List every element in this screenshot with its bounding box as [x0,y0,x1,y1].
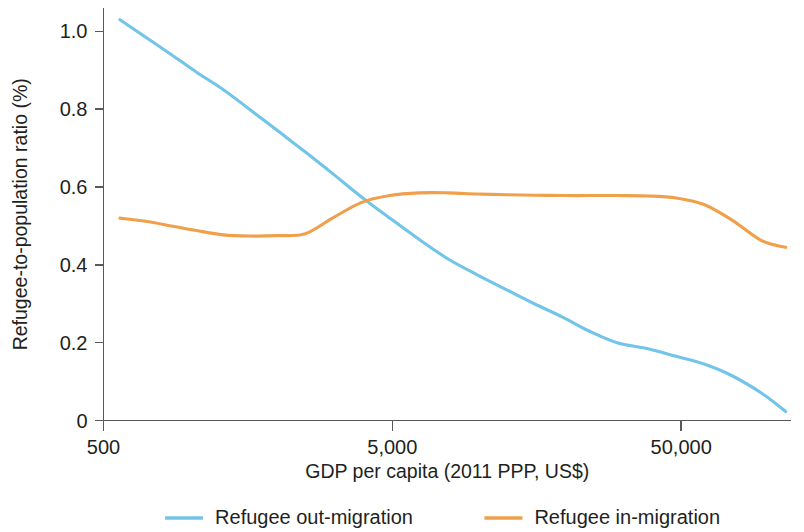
series-line-in-migration [120,193,786,248]
refugee-ratio-line-chart: 00.20.40.60.81.0 5005,00050,000 Refugee-… [0,0,804,532]
y-tick-label: 0.6 [60,176,88,198]
series-line-out-migration [120,20,786,412]
data-series-group [120,20,786,412]
chart-legend: Refugee out-migrationRefugee in-migratio… [165,506,720,528]
y-axis-title: Refugee-to-population ratio (%) [9,78,31,350]
y-axis-ticks: 00.20.40.60.81.0 [60,20,104,431]
x-axis-title: GDP per capita (2011 PPP, US$) [305,460,589,482]
legend-label-out-migration: Refugee out-migration [215,506,413,528]
x-tick-label: 500 [87,436,120,458]
legend-label-in-migration: Refugee in-migration [534,506,720,528]
y-tick-label: 0.4 [60,254,88,276]
y-tick-label: 0.8 [60,98,88,120]
x-axis-ticks: 5005,00050,000 [87,421,712,458]
y-tick-label: 0.2 [60,332,88,354]
chart-figure: 00.20.40.60.81.0 5005,00050,000 Refugee-… [0,0,804,532]
x-tick-label: 50,000 [651,436,712,458]
y-tick-label: 0 [76,410,87,432]
y-tick-label: 1.0 [60,20,88,42]
x-tick-label: 5,000 [367,436,417,458]
